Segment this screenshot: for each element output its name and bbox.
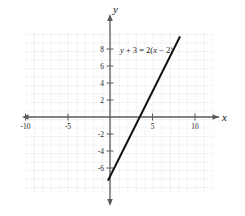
equation-label: y + 3 = 2(x − 2): [119, 45, 173, 55]
y-tick-label-6: 6: [100, 62, 104, 71]
y-tick-label-neg4: -4: [98, 147, 104, 156]
equation-annotation: y + 3 = 2(x − 2): [119, 45, 173, 55]
x-axis-name: x: [221, 111, 227, 123]
coordinate-plane-figure: -10 -5 5 10 8 6 4 2 -2 -4 -6 y + 3 = 2(x…: [0, 0, 245, 216]
x-tick-label-pos5: 5: [151, 122, 155, 131]
y-tick-label-neg6: -6: [98, 164, 104, 173]
x-tick-label-neg5: -5: [65, 122, 71, 131]
x-tick-label-pos10: 10: [191, 122, 199, 131]
y-tick-label-neg2: -2: [98, 130, 104, 139]
x-tick-label-neg10: -10: [21, 122, 31, 131]
y-axis-name: y: [112, 3, 118, 15]
graph-canvas: -10 -5 5 10 8 6 4 2 -2 -4 -6 y + 3 = 2(x…: [0, 0, 245, 216]
grid-lines: [26, 32, 213, 195]
y-tick-label-2: 2: [100, 96, 104, 105]
y-tick-label-4: 4: [100, 79, 104, 88]
y-tick-label-8: 8: [100, 45, 104, 54]
